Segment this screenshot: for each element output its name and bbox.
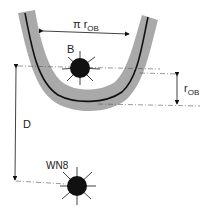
radius-label: rOB bbox=[184, 83, 199, 94]
body-b-label: B bbox=[67, 44, 74, 55]
diagram: π rOB B rOB D WN8 bbox=[0, 0, 207, 213]
source-guide-line bbox=[16, 181, 66, 184]
source-wn8-label: WN8 bbox=[46, 161, 68, 171]
top-radius-guide bbox=[140, 73, 178, 74]
arc-length-arrow bbox=[43, 31, 129, 34]
distance-arrow bbox=[15, 68, 16, 180]
body-b-icon bbox=[62, 51, 100, 85]
arc-length-label: π rOB bbox=[73, 19, 99, 30]
diagram-canvas bbox=[0, 0, 207, 213]
source-wn8-icon bbox=[60, 167, 96, 205]
distance-label: D bbox=[23, 119, 31, 130]
